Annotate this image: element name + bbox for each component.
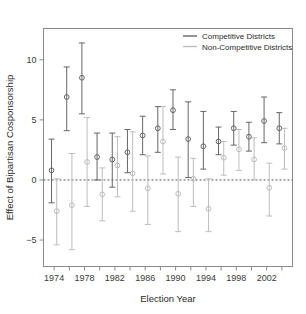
data-point <box>261 97 267 143</box>
data-point <box>64 67 70 131</box>
x-axis-title: Election Year <box>140 293 195 304</box>
x-tick-label: 1990 <box>166 273 186 283</box>
y-axis-title: Effect of Bipartisan Cosponsorship <box>4 75 15 221</box>
data-point <box>266 163 272 216</box>
data-point <box>155 107 161 153</box>
x-tick-label: 1994 <box>196 273 216 283</box>
data-point <box>231 111 237 145</box>
data-point <box>175 157 181 232</box>
data-point <box>246 122 252 151</box>
data-point <box>114 137 120 197</box>
data-point <box>251 138 257 180</box>
plot-border <box>44 29 293 267</box>
data-point <box>84 117 90 206</box>
chart-legend: Competitive DistrictsNon-Competitive Dis… <box>183 32 292 52</box>
x-tick-label: 1982 <box>105 273 125 283</box>
data-point <box>99 168 105 221</box>
data-point <box>145 156 151 225</box>
data-point <box>94 133 100 180</box>
data-point <box>190 158 196 206</box>
data-point <box>160 107 166 174</box>
data-point <box>216 127 222 155</box>
x-tick-label: 1974 <box>44 273 64 283</box>
legend-label: Non-Competitive Districts <box>202 43 292 52</box>
data-point <box>130 132 136 211</box>
data-point <box>54 179 60 245</box>
data-point <box>281 128 287 169</box>
x-tick-label: 1998 <box>226 273 246 283</box>
y-axis-ticks: −50510 <box>26 55 43 245</box>
data-point <box>170 90 176 130</box>
data-point <box>221 141 227 175</box>
y-tick-label: 10 <box>26 55 36 65</box>
data-point <box>109 133 115 187</box>
x-tick-label: 1978 <box>74 273 94 283</box>
data-point <box>69 154 75 250</box>
series-competitive-districts <box>49 43 283 203</box>
data-point <box>200 111 206 169</box>
x-axis-ticks: 19741978198219861990199419982002 <box>44 267 282 283</box>
series-non-competitive-districts <box>54 107 288 250</box>
data-point <box>49 139 55 203</box>
chart-figure: −50510 19741978198219861990199419982002 … <box>0 0 306 314</box>
scatter-plot-canvas: −50510 19741978198219861990199419982002 … <box>0 0 306 314</box>
y-tick-label: 0 <box>31 175 36 185</box>
plot-frame <box>44 29 293 267</box>
x-tick-label: 1986 <box>135 273 155 283</box>
y-tick-label: −5 <box>26 235 36 245</box>
data-point <box>206 179 212 232</box>
y-tick-label: 5 <box>31 115 36 125</box>
data-point <box>124 129 130 172</box>
data-point <box>140 116 146 154</box>
x-tick-label: 2002 <box>257 273 277 283</box>
data-point <box>185 102 191 178</box>
data-point <box>79 43 85 114</box>
legend-label: Competitive Districts <box>202 32 275 41</box>
data-point <box>276 113 282 144</box>
data-point <box>236 129 242 170</box>
